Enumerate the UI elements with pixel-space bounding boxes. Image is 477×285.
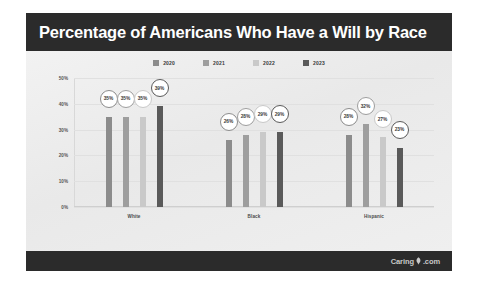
leaf-icon (415, 257, 422, 265)
data-label-bubble: 39% (151, 79, 169, 97)
data-label-bubble: 35% (100, 90, 118, 108)
legend-item-2020[interactable]: 2020 (153, 60, 175, 66)
watermark-text-post: .com (423, 257, 440, 266)
caring-watermark: Caring .com (391, 257, 440, 266)
bar-groups: 35%35%35%39%White26%28%29%29%Black28%32%… (74, 78, 434, 207)
bar-slot[interactable]: 39% (157, 78, 163, 207)
data-label-bubble: 29% (254, 105, 272, 123)
y-axis-tick-label: 0% (61, 205, 68, 210)
bar-2021-black[interactable] (243, 135, 249, 207)
chart-legend: 2020202120222023 (26, 56, 452, 70)
bar-2023-hispanic[interactable] (397, 148, 403, 207)
bar-slot[interactable]: 35% (140, 78, 146, 207)
plot-area: 50%40%30%20%10%0% 35%35%35%39%White26%28… (74, 78, 434, 207)
bar-2023-white[interactable] (157, 106, 163, 207)
chart-header-band: Percentage of Americans Who Have a Will … (26, 13, 452, 51)
legend-swatch-icon (203, 60, 209, 66)
bar-group-white: 35%35%35%39%White (74, 78, 194, 207)
data-label-bubble: 23% (391, 121, 409, 139)
bar-2021-hispanic[interactable] (363, 124, 369, 207)
bar-2023-black[interactable] (277, 132, 283, 207)
legend-label: 2020 (163, 60, 175, 66)
data-label-bubble: 32% (357, 97, 375, 115)
bar-2021-white[interactable] (123, 117, 129, 207)
x-axis-category-label: Black (194, 214, 314, 219)
data-label-bubble: 35% (134, 90, 152, 108)
y-axis-tick-label: 20% (59, 153, 68, 158)
bar-2020-hispanic[interactable] (346, 135, 352, 207)
legend-swatch-icon (303, 60, 309, 66)
data-label-bubble: 35% (117, 90, 135, 108)
legend-swatch-icon (153, 60, 159, 66)
gridline (74, 207, 434, 208)
bar-2022-white[interactable] (140, 117, 146, 207)
legend-item-2021[interactable]: 2021 (203, 60, 225, 66)
page-title: Percentage of Americans Who Have a Will … (39, 23, 427, 42)
data-label-bubble: 28% (237, 108, 255, 126)
x-axis-category-label: White (74, 214, 194, 219)
data-label-bubble: 29% (271, 105, 289, 123)
y-axis-tick-label: 30% (59, 127, 68, 132)
legend-item-2022[interactable]: 2022 (253, 60, 275, 66)
bar-2020-black[interactable] (226, 140, 232, 207)
legend-label: 2023 (313, 60, 325, 66)
bar-slot[interactable]: 35% (123, 78, 129, 207)
y-axis-tick-label: 50% (59, 76, 68, 81)
y-axis-tick-label: 40% (59, 101, 68, 106)
bar-slot[interactable]: 29% (277, 78, 283, 207)
chart-card: Percentage of Americans Who Have a Will … (26, 13, 452, 271)
x-axis-category-label: Hispanic (314, 214, 434, 219)
plot-surface: 2020202120222023 50%40%30%20%10%0% 35%35… (26, 51, 452, 251)
watermark-text-pre: Caring (391, 257, 414, 266)
y-axis-tick-label: 10% (59, 179, 68, 184)
bar-slot[interactable]: 29% (260, 78, 266, 207)
bar-slot[interactable]: 26% (226, 78, 232, 207)
bar-2020-white[interactable] (106, 117, 112, 207)
legend-label: 2021 (213, 60, 225, 66)
bar-slot[interactable]: 35% (106, 78, 112, 207)
bar-2022-black[interactable] (260, 132, 266, 207)
bar-slot[interactable]: 28% (243, 78, 249, 207)
legend-label: 2022 (263, 60, 275, 66)
legend-item-2023[interactable]: 2023 (303, 60, 325, 66)
bar-2022-hispanic[interactable] (380, 137, 386, 207)
bar-group-hispanic: 28%32%27%23%Hispanic (314, 78, 434, 207)
data-label-bubble: 28% (340, 108, 358, 126)
bar-slot[interactable]: 23% (397, 78, 403, 207)
legend-swatch-icon (253, 60, 259, 66)
bar-slot[interactable]: 32% (363, 78, 369, 207)
bar-group-black: 26%28%29%29%Black (194, 78, 314, 207)
data-label-bubble: 27% (374, 110, 392, 128)
bar-slot[interactable]: 27% (380, 78, 386, 207)
data-label-bubble: 26% (220, 113, 238, 131)
chart-footer-band: Caring .com (26, 251, 452, 271)
bar-slot[interactable]: 28% (346, 78, 352, 207)
